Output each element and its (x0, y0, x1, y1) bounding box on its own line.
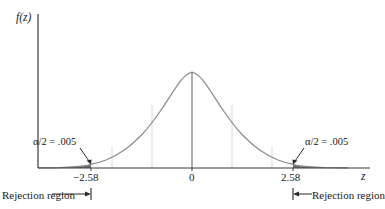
rejection-bracket-right (293, 188, 312, 200)
normal-curve (38, 72, 348, 168)
alpha-left-leader (80, 148, 92, 165)
alpha-annotation-left: α/2 = .005 (33, 137, 76, 148)
rejection-region-label-right: Rejection region (312, 190, 385, 201)
alpha-annotation-right: α/2 = .005 (305, 137, 348, 148)
x-axis-label: z (361, 171, 365, 183)
x-tick-label-negative: −2.58 (73, 172, 98, 183)
alpha-right-leader (292, 148, 304, 165)
y-axis-label: f(z) (16, 12, 31, 24)
normal-distribution-figure: f(z) z −2.58 0 2.58 α/2 = .005 α/2 = .00… (0, 0, 385, 209)
x-tick-label-positive: 2.58 (281, 172, 300, 183)
x-tick-label-zero: 0 (189, 172, 195, 183)
rejection-region-label-left: Rejection region (2, 190, 75, 201)
